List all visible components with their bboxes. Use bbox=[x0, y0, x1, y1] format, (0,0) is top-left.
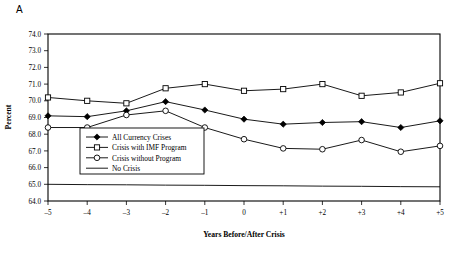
marker-open-circle bbox=[124, 112, 130, 118]
marker-open-square bbox=[45, 95, 50, 100]
marker-open-circle bbox=[320, 146, 326, 152]
y-tick-label: 66.0 bbox=[28, 164, 41, 172]
x-tick-label: +3 bbox=[358, 209, 366, 217]
y-axis-title: Percent bbox=[4, 104, 13, 129]
series-line bbox=[48, 184, 440, 187]
legend-label: Crisis with IMF Program bbox=[112, 143, 187, 152]
series-all-currency-crises bbox=[45, 99, 443, 131]
marker-filled-diamond bbox=[280, 121, 286, 127]
x-tick-label: +2 bbox=[319, 209, 327, 217]
marker-open-square bbox=[320, 82, 325, 87]
legend-label: No Crisis bbox=[112, 164, 140, 173]
y-tick-label: 65.0 bbox=[28, 181, 41, 189]
x-axis-title: Years Before/After Crisis bbox=[203, 230, 285, 239]
y-tick-label: 64.0 bbox=[28, 198, 41, 206]
x-axis-ticks: –5–4–3–2–10+1+2+3+4+5 bbox=[43, 201, 444, 217]
y-tick-label: 67.0 bbox=[28, 148, 41, 156]
marker-open-square bbox=[241, 88, 246, 93]
line-chart: 64.065.066.067.068.069.070.071.072.073.0… bbox=[0, 0, 455, 254]
marker-filled-diamond bbox=[398, 124, 404, 130]
x-tick-label: –4 bbox=[83, 209, 92, 217]
marker-open-square bbox=[163, 86, 168, 91]
y-tick-label: 72.0 bbox=[28, 64, 41, 72]
marker-filled-diamond bbox=[437, 118, 443, 124]
x-tick-label: –1 bbox=[200, 209, 209, 217]
series-line bbox=[48, 102, 440, 128]
series-no-crisis bbox=[48, 184, 440, 187]
marker-open-square bbox=[437, 81, 442, 86]
y-tick-label: 69.0 bbox=[28, 114, 41, 122]
marker-open-circle bbox=[163, 108, 169, 114]
marker-open-square bbox=[359, 93, 364, 98]
y-tick-label: 71.0 bbox=[28, 81, 41, 89]
marker-filled-diamond bbox=[84, 114, 90, 120]
x-tick-label: +5 bbox=[436, 209, 444, 217]
y-tick-label: 74.0 bbox=[28, 31, 41, 39]
x-tick-label: +1 bbox=[279, 209, 287, 217]
marker-open-circle bbox=[241, 136, 247, 142]
x-tick-label: +4 bbox=[397, 209, 405, 217]
series-crisis-with-imf-program bbox=[45, 81, 442, 106]
marker-filled-diamond bbox=[45, 113, 51, 119]
x-tick-label: –2 bbox=[161, 209, 170, 217]
marker-open-square bbox=[398, 90, 403, 95]
x-tick-label: –5 bbox=[43, 209, 52, 217]
marker-open-circle bbox=[94, 155, 100, 161]
marker-open-square bbox=[85, 98, 90, 103]
marker-filled-diamond bbox=[163, 99, 169, 105]
marker-filled-diamond bbox=[202, 107, 208, 113]
legend-label: Crisis without Program bbox=[112, 154, 181, 163]
marker-filled-diamond bbox=[241, 116, 247, 122]
marker-open-circle bbox=[437, 143, 443, 149]
y-tick-label: 70.0 bbox=[28, 97, 41, 105]
x-tick-label: 0 bbox=[242, 209, 246, 217]
x-tick-label: –3 bbox=[122, 209, 131, 217]
marker-open-circle bbox=[359, 137, 365, 143]
marker-open-circle bbox=[280, 146, 286, 152]
y-axis-ticks: 64.065.066.067.068.069.070.071.072.073.0… bbox=[28, 31, 48, 206]
marker-filled-diamond bbox=[359, 119, 365, 125]
marker-filled-diamond bbox=[319, 119, 325, 125]
marker-open-circle bbox=[398, 149, 404, 155]
y-tick-label: 73.0 bbox=[28, 47, 41, 55]
y-tick-label: 68.0 bbox=[28, 131, 41, 139]
marker-open-square bbox=[281, 87, 286, 92]
marker-open-circle bbox=[45, 125, 51, 131]
chart-legend[interactable]: All Currency CrisesCrisis with IMF Progr… bbox=[80, 128, 204, 174]
marker-open-square bbox=[94, 145, 99, 150]
marker-open-square bbox=[202, 82, 207, 87]
legend-label: All Currency Crises bbox=[112, 133, 171, 142]
marker-open-square bbox=[124, 101, 129, 106]
chart-svg: 64.065.066.067.068.069.070.071.072.073.0… bbox=[0, 0, 455, 254]
